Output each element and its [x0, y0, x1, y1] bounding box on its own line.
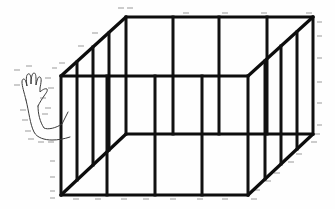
waving-hand-icon — [22, 73, 70, 140]
right-side-face — [248, 17, 313, 195]
left-side-face — [61, 17, 126, 195]
figure-canvas: wireframe-cage-with-hand — [0, 0, 335, 209]
wireframe-cage-drawing — [0, 0, 335, 209]
